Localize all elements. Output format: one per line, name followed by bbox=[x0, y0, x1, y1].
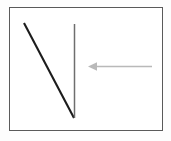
image-border bbox=[10, 8, 163, 131]
figure-svg bbox=[0, 0, 171, 141]
figure-canvas bbox=[0, 0, 171, 141]
